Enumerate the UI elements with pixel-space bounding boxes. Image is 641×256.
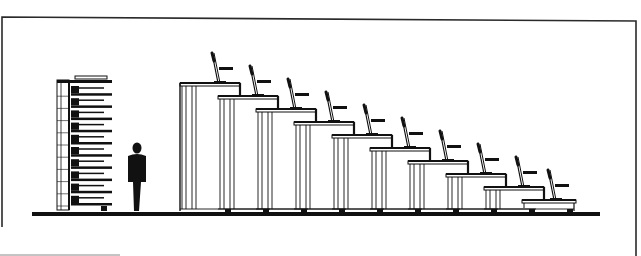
- chair-seat-base: [214, 81, 226, 83]
- tier-deck: [71, 154, 112, 157]
- floor-bar: [32, 212, 600, 216]
- tier-deck: [71, 130, 112, 133]
- wheel-icon: [225, 209, 231, 213]
- chair-seat-base: [518, 185, 530, 187]
- chair-armrest: [333, 106, 347, 109]
- wheel-icon: [415, 209, 421, 213]
- background: [0, 0, 641, 256]
- wheel-icon: [339, 209, 345, 213]
- wheel-icon: [453, 209, 459, 213]
- chair-armrest: [409, 132, 423, 135]
- chair-back-pad: [478, 144, 480, 152]
- wheel-icon: [263, 209, 269, 213]
- chair-seat-base: [404, 146, 416, 148]
- chair-back-pad: [516, 157, 518, 165]
- stack-top-plate: [57, 80, 112, 83]
- chair-back-pad: [364, 105, 366, 113]
- chair-seat-base: [550, 198, 562, 200]
- folded-chair: [71, 147, 79, 154]
- folded-chair: [71, 159, 79, 166]
- bleacher-elevation-diagram: [0, 0, 641, 256]
- wheel-icon: [491, 209, 497, 213]
- tier-deck: [71, 179, 112, 182]
- chair-armrest: [523, 171, 537, 174]
- chair-seat-base: [328, 120, 340, 122]
- chair-armrest: [485, 158, 499, 161]
- floor-line: [32, 212, 600, 216]
- folded-chair: [71, 110, 79, 117]
- tier-deck: [71, 142, 112, 145]
- folded-chair: [71, 171, 79, 178]
- wheel-icon: [301, 209, 307, 213]
- chair-seat-base: [366, 133, 378, 135]
- tier-deck: [71, 203, 112, 206]
- chair-armrest: [447, 145, 461, 148]
- chair-armrest: [295, 93, 309, 96]
- chair-seat-base: [480, 172, 492, 174]
- chair-back-pad: [548, 170, 550, 178]
- folded-chair: [71, 86, 79, 93]
- tier-deck: [71, 105, 112, 108]
- folded-chair: [71, 184, 79, 191]
- chair-seat-base: [442, 159, 454, 161]
- chair-armrest: [371, 119, 385, 122]
- wheel-icon: [567, 209, 573, 213]
- chair-back-pad: [440, 131, 442, 139]
- wheel-icon: [377, 209, 383, 213]
- chair-seat-base: [290, 107, 302, 109]
- chair-armrest: [219, 67, 233, 70]
- chair-back-pad: [326, 92, 328, 100]
- wheel-icon: [101, 206, 107, 211]
- folded-chair: [71, 123, 79, 130]
- chair-seat-base: [252, 94, 264, 96]
- chair-armrest: [257, 80, 271, 83]
- chair-back-pad: [288, 79, 290, 87]
- tier-deck: [71, 93, 112, 96]
- wheel-icon: [529, 209, 535, 213]
- folded-chair: [71, 98, 79, 105]
- stack-top-seat: [75, 76, 107, 79]
- tier-deck: [71, 166, 112, 169]
- chair-armrest: [555, 184, 569, 187]
- chair-back-pad: [212, 53, 214, 61]
- tier-deck: [71, 118, 112, 121]
- human-head: [133, 143, 142, 154]
- chair-back-pad: [250, 66, 252, 74]
- chair-back-pad: [402, 118, 404, 126]
- tier-deck: [71, 191, 112, 194]
- folded-chair: [71, 196, 79, 203]
- folded-chair: [71, 135, 79, 142]
